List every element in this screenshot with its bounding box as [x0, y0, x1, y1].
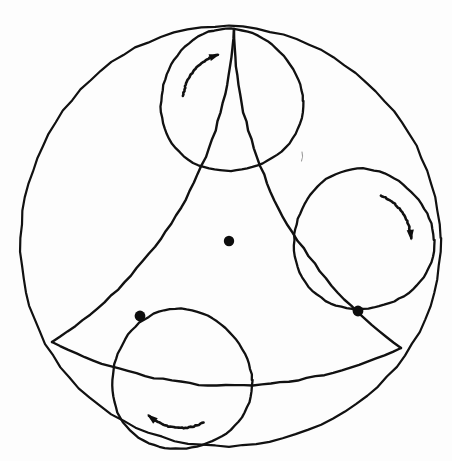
figure-canvas [0, 0, 452, 461]
contact-dot-left [135, 311, 146, 322]
rotation-arrow-top-head [209, 54, 220, 61]
curved-triangle-arc-right [234, 29, 401, 348]
rolling-circle-right [294, 168, 435, 309]
curved-triangle-arc-left [52, 29, 234, 342]
geometric-figure [0, 0, 452, 461]
stray-pen-mark [302, 152, 303, 161]
center-point [224, 236, 234, 246]
rotation-arrow-bottom [149, 416, 204, 429]
rotation-arrow-top [183, 55, 218, 96]
contact-dot-right [353, 306, 364, 317]
rotation-arrow-right [381, 196, 411, 239]
curved-triangle-arc-bottom [52, 342, 401, 386]
